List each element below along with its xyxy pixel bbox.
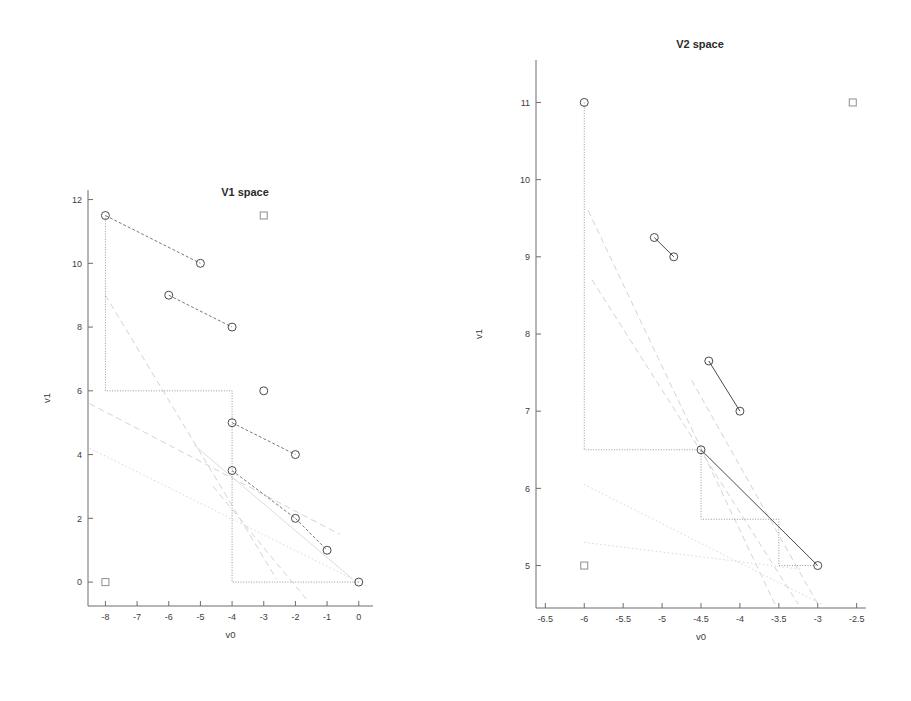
data-markers [580,98,856,569]
x-tick-label: -5.5 [615,614,631,624]
staircase-boundary [584,102,817,565]
data-point-square [102,579,109,586]
plot-area-v1-space: V1 space024681012-8-7-6-5-4-3-2-10v0v1 [0,0,430,701]
x-tick-label: -4 [228,612,236,622]
faint-guide-lines [90,295,369,601]
x-tick-label: -3 [260,612,268,622]
data-point-circle [260,387,268,395]
plot-title: V2 space [676,38,724,50]
y-axis-label: v1 [473,329,484,339]
y-tick-label: 12 [72,195,82,205]
data-point-square [260,212,267,219]
x-tick-label: -5 [658,614,666,624]
axes: 567891011-6.5-6-5.5-5-4.5-4-3.5-3-2.5 [520,60,866,624]
x-tick-label: -4 [736,614,744,624]
point-pair-segments [105,216,327,551]
x-tick-label: -4.5 [693,614,709,624]
staircase-boundary [105,216,358,583]
y-tick-label: 6 [77,386,82,396]
data-point-square [581,562,588,569]
x-tick-label: -6 [580,614,588,624]
y-tick-label: 10 [72,259,82,269]
y-tick-label: 2 [77,514,82,524]
x-tick-label: -8 [101,612,109,622]
x-tick-label: -1 [323,612,331,622]
plot-area-v2-space: V2 space567891011-6.5-6-5.5-5-4.5-4-3.5-… [440,0,911,701]
panel-v2-space: V2 space567891011-6.5-6-5.5-5-4.5-4-3.5-… [440,0,911,701]
y-tick-label: 11 [521,98,530,108]
panel-v1-space: V1 space024681012-8-7-6-5-4-3-2-10v0v1 [0,0,430,701]
y-axis-label: v1 [41,393,52,403]
x-axis-label: v0 [225,629,235,640]
x-tick-label: -2.5 [849,614,865,624]
x-axis-label: v0 [696,631,706,642]
x-tick-label: -7 [133,612,141,622]
y-tick-label: 8 [77,322,82,332]
y-tick-label: 0 [77,577,82,587]
x-tick-label: -5 [196,612,204,622]
y-tick-label: 7 [525,406,530,416]
data-point-circle [323,546,331,554]
faint-guide-lines [584,211,821,605]
y-tick-label: 10 [520,175,530,185]
x-tick-label: -3 [814,614,822,624]
x-tick-label: -6 [165,612,173,622]
y-tick-label: 9 [525,252,530,262]
y-tick-label: 6 [525,484,530,494]
x-tick-label: -6.5 [538,614,554,624]
data-point-square [849,99,856,106]
plot-title: V1 space [221,186,269,198]
x-tick-label: -2 [291,612,299,622]
y-tick-label: 8 [525,329,530,339]
y-tick-label: 5 [525,561,530,571]
x-tick-label: -3.5 [771,614,787,624]
x-tick-label: 0 [356,612,361,622]
figure-canvas: V1 space024681012-8-7-6-5-4-3-2-10v0v1 V… [0,0,911,701]
y-tick-label: 4 [77,450,82,460]
axes: 024681012-8-7-6-5-4-3-2-10 [72,190,373,622]
